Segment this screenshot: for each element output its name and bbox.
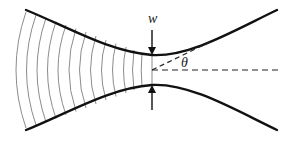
wavefront-arc — [69, 29, 76, 112]
wavefront-arc — [91, 36, 97, 104]
wavefront-arc — [124, 47, 127, 93]
wavefront-arc — [102, 40, 107, 100]
wavefront-arc — [141, 53, 142, 87]
wavefront-arc — [80, 32, 87, 108]
wavefront-arc — [58, 25, 66, 115]
wavefront-arc — [48, 22, 57, 119]
diagram-graphic — [0, 0, 292, 141]
wavefront-arc — [37, 18, 46, 122]
waist-label: w — [148, 12, 157, 26]
wavefront-arc — [27, 15, 37, 125]
wavefront-arc — [16, 12, 26, 128]
wavefront-arcs — [16, 12, 152, 128]
divergence-angle-label: θ — [181, 56, 188, 70]
wavefront-arc — [133, 50, 135, 90]
wavefront-arc — [113, 44, 117, 97]
gaussian-beam-diagram: w θ — [0, 0, 292, 141]
